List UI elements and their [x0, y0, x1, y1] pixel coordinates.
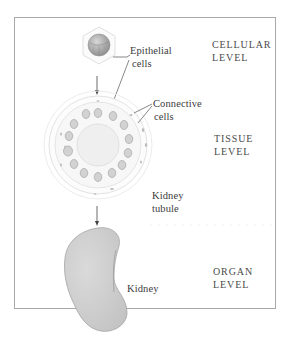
kidney-tubule-label: Kidney tubule [152, 189, 184, 215]
label-line1: Epithelial [130, 44, 172, 57]
level-line2: LEVEL [214, 145, 253, 158]
kidney-label: Kidney [127, 282, 159, 295]
label-line2: cells [153, 110, 202, 123]
cellular-level-label: CELLULAR LEVEL [212, 38, 271, 64]
connective-leader-line [134, 104, 152, 113]
arrow-down-icon [95, 206, 99, 226]
cell-icon [83, 27, 115, 64]
level-line1: CELLULAR [212, 38, 271, 51]
kidney-organ-icon [64, 228, 127, 332]
connective-cells-label: Connective cells [153, 97, 202, 123]
epithelial-cells-label: Epithelial cells [130, 44, 172, 70]
connective-leader-line-2 [138, 106, 152, 123]
levels-of-organization-diagram: CELLULAR LEVEL TISSUE LEVEL ORGAN LEVEL … [0, 0, 289, 337]
label-line2: tubule [152, 202, 184, 215]
epithelial-leader-line [113, 55, 130, 57]
level-line2: LEVEL [213, 278, 253, 291]
level-line2: LEVEL [212, 51, 271, 64]
level-line1: TISSUE [214, 132, 253, 145]
organ-level-label: ORGAN LEVEL [213, 265, 253, 291]
tissue-level-label: TISSUE LEVEL [214, 132, 253, 158]
kidney-tubule-cross-section [44, 91, 152, 199]
arrow-down-icon [95, 76, 99, 95]
level-line1: ORGAN [213, 265, 253, 278]
label-line1: Connective [153, 97, 202, 110]
label-line1: Kidney [152, 189, 184, 202]
label-line2: cells [130, 57, 172, 70]
